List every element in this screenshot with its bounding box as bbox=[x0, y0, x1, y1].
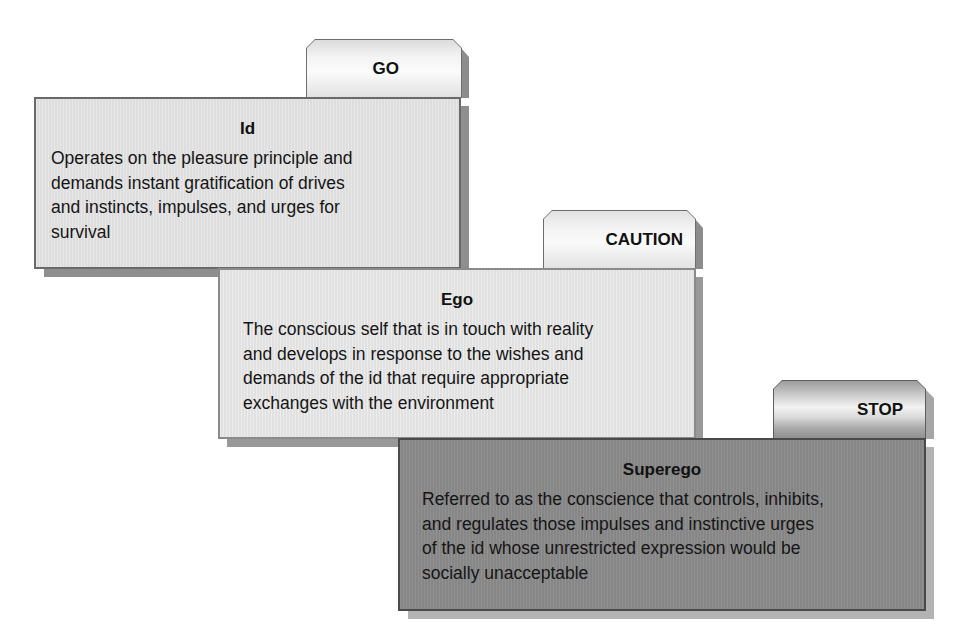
ego-description-line: demands of the id that require appropria… bbox=[243, 366, 693, 391]
stop-tab-label: STOP bbox=[857, 400, 903, 420]
stop-tab-shadow bbox=[925, 389, 934, 439]
superego-title: Superego bbox=[400, 460, 924, 480]
ego-description-line: exchanges with the environment bbox=[243, 391, 693, 416]
caution-tab: CAUTION bbox=[543, 210, 696, 269]
id-description-line: Operates on the pleasure principle and bbox=[51, 146, 451, 171]
go-tab-shadow bbox=[461, 48, 469, 98]
ego-box: Ego The conscious self that is in touch … bbox=[218, 268, 696, 439]
caution-tab-shadow bbox=[695, 219, 703, 269]
superego-description-line: socially unacceptable bbox=[422, 561, 922, 586]
stop-tab: STOP bbox=[773, 380, 926, 439]
id-description-line: survival bbox=[51, 220, 451, 245]
superego-description-line: of the id whose unrestricted expression … bbox=[422, 536, 922, 561]
id-description: Operates on the pleasure principle and d… bbox=[51, 146, 451, 244]
id-ego-superego-diagram: GO Id Operates on the pleasure principle… bbox=[0, 0, 959, 637]
ego-description: The conscious self that is in touch with… bbox=[243, 317, 693, 415]
id-title: Id bbox=[36, 119, 459, 139]
id-box: Id Operates on the pleasure principle an… bbox=[34, 97, 461, 269]
superego-description-line: Referred to as the conscience that contr… bbox=[422, 487, 922, 512]
id-description-line: demands instant gratification of drives bbox=[51, 171, 451, 196]
superego-description-line: and regulates those impulses and instinc… bbox=[422, 512, 922, 537]
id-description-line: and instincts, impulses, and urges for bbox=[51, 195, 451, 220]
ego-title: Ego bbox=[220, 290, 694, 310]
go-tab-label: GO bbox=[373, 59, 399, 79]
ego-description-line: The conscious self that is in touch with… bbox=[243, 317, 693, 342]
superego-description: Referred to as the conscience that contr… bbox=[422, 487, 922, 585]
superego-box: Superego Referred to as the conscience t… bbox=[398, 438, 926, 611]
caution-tab-label: CAUTION bbox=[606, 230, 683, 250]
go-tab: GO bbox=[306, 39, 462, 98]
ego-description-line: and develops in response to the wishes a… bbox=[243, 342, 693, 367]
